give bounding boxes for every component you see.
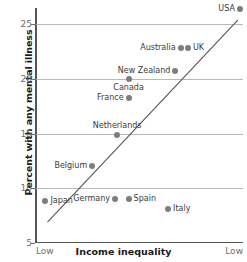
point-label: Australia [140,44,175,52]
point-label: USA [218,5,235,13]
y-tick-label-15: 15 [16,129,32,139]
data-point[interactable] [126,196,132,202]
y-tick-mark-5 [31,243,35,244]
data-point[interactable] [237,6,243,12]
point-label: Netherlands [93,122,142,130]
y-tick-label-25: 25 [16,19,32,29]
x-axis-label-left: Low [36,246,54,256]
point-label: Canada [113,84,143,92]
y-tick-label-10: 10 [16,183,32,193]
point-label: Japan [50,197,72,205]
y-tick-label-20: 20 [16,74,32,84]
data-point[interactable] [126,76,132,82]
point-label: UK [193,44,204,52]
point-label: France [97,94,124,102]
x-axis-label-right: Low [225,246,243,256]
data-point[interactable] [114,132,120,138]
scatter-chart: Percent with any mental illness 25201510… [0,0,247,262]
point-label: Italy [173,205,190,213]
plot-area: USAAustraliaUKNew ZealandCanadaFranceNet… [35,8,243,243]
point-label: New Zealand [118,67,171,75]
point-label: Belgium [54,162,87,170]
point-label: Spain [134,195,156,203]
y-axis-tick-labels: 252015105 [12,0,32,262]
point-label: Germany [73,195,110,203]
data-point[interactable] [126,95,132,101]
